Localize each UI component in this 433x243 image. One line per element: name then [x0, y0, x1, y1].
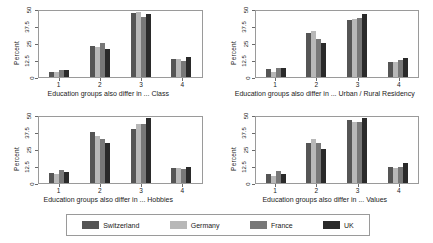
y-axis-tick-mark	[252, 78, 255, 79]
x-axis-tick-label: 2	[315, 81, 319, 88]
y-axis-title: Percent	[13, 129, 20, 189]
x-axis-tick-label: 3	[139, 187, 143, 194]
bar	[403, 163, 408, 183]
panel-class: Percent012.52537.550 Education groups al…	[0, 0, 217, 106]
x-axis-title: Education groups also differ in ... Hobb…	[0, 196, 217, 203]
bar-group	[49, 117, 69, 183]
y-axis-title: Percent	[229, 129, 236, 189]
bar	[146, 14, 151, 77]
y-axis-tick-label: 37.5	[238, 130, 250, 136]
x-axis-tick-label: 2	[98, 187, 102, 194]
plot-area	[38, 116, 203, 184]
panel-urban-rural-residency: Percent012.52537.550 Education groups al…	[217, 0, 433, 106]
bar-group	[306, 11, 326, 77]
y-axis-tick-label: 37.5	[238, 24, 250, 30]
plot-area	[38, 10, 203, 78]
chart-legend: SwitzerlandGermanyFranceUK	[66, 214, 370, 236]
bar	[321, 149, 326, 183]
bar-group	[49, 11, 69, 77]
y-axis-tick-label: 12.5	[21, 58, 33, 64]
x-axis-tick-label: 2	[315, 187, 319, 194]
x-axis-tick-label: 3	[139, 81, 143, 88]
x-axis-tick-label: 1	[57, 187, 61, 194]
bar-group	[90, 11, 110, 77]
bar	[403, 58, 408, 77]
bar-group	[266, 11, 286, 77]
y-axis-tick-mark	[35, 184, 38, 185]
x-axis-tick-label: 4	[181, 81, 185, 88]
y-axis-tick-label: 50	[26, 113, 33, 119]
legend-item: UK	[323, 221, 354, 229]
bar-groups	[256, 11, 419, 77]
y-axis-tick-mark	[35, 78, 38, 79]
panel-hobbies: Percent012.52537.550 Education groups al…	[0, 106, 217, 212]
plot-area	[255, 116, 420, 184]
x-axis-tick-label: 3	[356, 187, 360, 194]
y-axis-title: Percent	[229, 23, 236, 83]
bar	[321, 43, 326, 77]
bar-group	[347, 117, 367, 183]
bar	[146, 118, 151, 183]
y-axis-tick-label: 50	[26, 7, 33, 13]
y-axis-tick-label: 12.5	[21, 164, 33, 170]
y-axis-tick-label: 25	[26, 147, 33, 153]
y-axis-tick-label: 37.5	[21, 130, 33, 136]
legend-swatch	[82, 221, 99, 229]
legend-label: Switzerland	[103, 222, 139, 229]
bar-groups	[39, 117, 202, 183]
legend-label: Germany	[191, 222, 220, 229]
legend-item: Germany	[170, 221, 220, 229]
bar	[105, 143, 110, 183]
x-axis-tick-label: 4	[397, 81, 401, 88]
x-axis-tick-label: 1	[57, 81, 61, 88]
legend-swatch	[170, 221, 187, 229]
y-axis-tick-label: 25	[243, 41, 250, 47]
y-axis-tick-label: 37.5	[21, 24, 33, 30]
bar-group	[171, 11, 191, 77]
bar-group	[131, 11, 151, 77]
bar-group	[388, 117, 408, 183]
legend-label: France	[271, 222, 293, 229]
bar-group	[171, 117, 191, 183]
bar	[362, 118, 367, 183]
x-axis-title: Education groups also differ in ... Urba…	[217, 90, 433, 97]
legend-item: France	[250, 221, 293, 229]
bar-group	[90, 117, 110, 183]
y-axis-title: Percent	[13, 23, 20, 83]
x-axis-tick-label: 2	[98, 81, 102, 88]
x-axis-tick-label: 4	[397, 187, 401, 194]
bar-group	[347, 11, 367, 77]
y-axis-tick-label: 12.5	[238, 58, 250, 64]
x-axis-tick-label: 3	[356, 81, 360, 88]
y-axis-tick-mark	[252, 184, 255, 185]
plot-area	[255, 10, 420, 78]
bar-group	[388, 11, 408, 77]
legend-item: Switzerland	[82, 221, 139, 229]
x-axis-tick-label: 1	[273, 81, 277, 88]
bar	[186, 167, 191, 184]
bar	[281, 68, 286, 77]
y-axis-tick-label: 25	[26, 41, 33, 47]
panel-values: Percent012.52537.550 Education groups al…	[217, 106, 433, 212]
y-axis-tick-label: 12.5	[238, 164, 250, 170]
chart-figure: Percent012.52537.550 Education groups al…	[0, 0, 433, 243]
legend-swatch	[323, 221, 340, 229]
legend-label: UK	[344, 222, 354, 229]
y-axis-tick-label: 50	[243, 113, 250, 119]
bar-groups	[39, 11, 202, 77]
bar-group	[131, 117, 151, 183]
x-axis-tick-label: 1	[273, 187, 277, 194]
y-axis-tick-label: 0	[246, 75, 249, 81]
bar-groups	[256, 117, 419, 183]
bar	[105, 49, 110, 77]
legend-swatch	[250, 221, 267, 229]
y-axis-tick-label: 0	[30, 75, 33, 81]
y-axis-tick-label: 0	[30, 181, 33, 187]
bar-group	[306, 117, 326, 183]
y-axis-tick-label: 50	[243, 7, 250, 13]
panel-grid: Percent012.52537.550 Education groups al…	[0, 0, 433, 212]
x-axis-title: Education groups also differ in ... Valu…	[217, 196, 433, 203]
bar-group	[266, 117, 286, 183]
bar	[186, 57, 191, 77]
y-axis-tick-label: 0	[246, 181, 249, 187]
